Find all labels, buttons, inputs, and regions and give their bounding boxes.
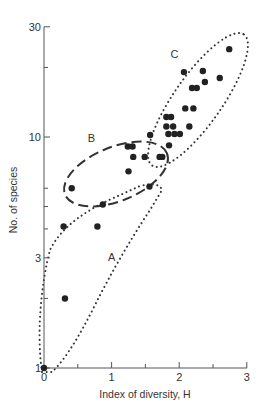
scatter-chart: 131030 0123 ABC Index of diversity, H No… xyxy=(0,0,270,410)
group-label-c: C xyxy=(170,48,178,60)
data-point xyxy=(186,123,192,129)
group-c-outline xyxy=(132,21,263,180)
x-tick-label: 3 xyxy=(244,371,250,383)
data-point xyxy=(181,69,187,75)
data-points xyxy=(41,46,233,371)
x-tick-label: 0 xyxy=(41,371,47,383)
data-point xyxy=(147,132,153,138)
data-point xyxy=(69,185,75,191)
x-tick-label: 2 xyxy=(176,371,182,383)
group-label-b: B xyxy=(88,132,95,144)
x-tick-label: 1 xyxy=(109,371,115,383)
data-point xyxy=(100,201,106,207)
data-point xyxy=(94,223,100,229)
data-point xyxy=(217,75,223,81)
data-point xyxy=(194,85,200,91)
group-b-outline xyxy=(55,128,177,219)
data-point xyxy=(182,105,188,111)
data-point xyxy=(130,154,136,160)
data-point xyxy=(62,295,68,301)
data-point xyxy=(166,142,172,148)
data-point xyxy=(200,68,206,74)
y-tick-label: 10 xyxy=(29,131,41,143)
data-point xyxy=(146,183,152,189)
data-point xyxy=(202,79,208,85)
data-point xyxy=(170,123,176,129)
data-point xyxy=(165,131,171,137)
y-tick-label: 30 xyxy=(29,21,41,33)
data-point xyxy=(168,114,174,120)
data-point xyxy=(142,154,148,160)
x-ticks: 0123 xyxy=(41,362,250,383)
group-a-outline xyxy=(40,184,162,372)
group-outlines xyxy=(40,21,264,372)
data-point xyxy=(190,105,196,111)
y-tick-label: 3 xyxy=(35,252,41,264)
data-point xyxy=(60,223,66,229)
data-point xyxy=(177,131,183,137)
data-point xyxy=(41,365,47,371)
y-axis-title: No. of species xyxy=(7,167,19,234)
data-point xyxy=(129,143,135,149)
data-point xyxy=(159,154,165,160)
group-label-a: A xyxy=(108,251,116,263)
x-axis-title: Index of diversity, H xyxy=(99,388,190,400)
data-point xyxy=(226,46,232,52)
data-point xyxy=(125,168,131,174)
data-point xyxy=(163,123,169,129)
axes: 131030 0123 xyxy=(29,21,250,383)
